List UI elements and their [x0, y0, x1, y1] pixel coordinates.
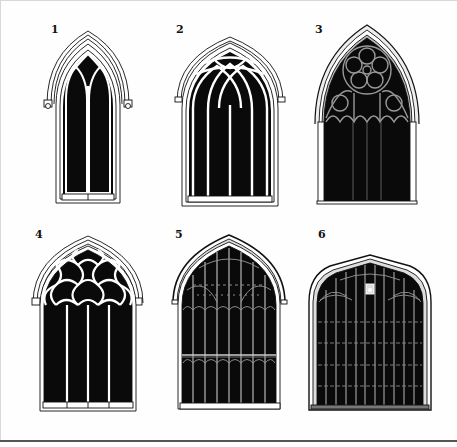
window-2-intersecting-tracery: [175, 37, 285, 206]
illustration-plate: 1 2 3 4 5 6: [0, 0, 457, 447]
window-4-reticulated-tracery: [32, 236, 143, 411]
window-6-four-centred-perpendicular: [309, 255, 431, 410]
window-5-perpendicular-tracery: [172, 235, 287, 409]
window-1-lancet: [44, 31, 132, 203]
window-3-rose-tracery: [315, 25, 419, 204]
